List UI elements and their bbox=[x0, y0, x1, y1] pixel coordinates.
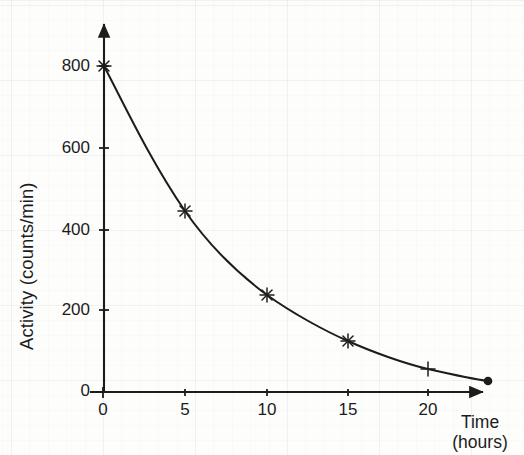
decay-chart-figure: 0 200 400 600 800 0 5 10 15 20 Activity … bbox=[0, 0, 524, 455]
y-tick-label-800: 800 bbox=[38, 56, 90, 76]
y-tick-label-200: 200 bbox=[38, 300, 90, 320]
y-tick-label-600: 600 bbox=[38, 138, 90, 158]
x-axis-title-line2: (hours) bbox=[440, 432, 520, 452]
y-axis-title: Activity (counts/min) bbox=[16, 182, 38, 350]
x-axis-title-line1: Time bbox=[440, 412, 520, 432]
data-point-0 bbox=[97, 59, 111, 73]
x-tick-label-0: 0 bbox=[98, 400, 107, 420]
x-tick-label-5: 5 bbox=[180, 400, 189, 420]
data-point-markers bbox=[97, 59, 435, 376]
x-tick-label-10: 10 bbox=[258, 400, 277, 420]
y-tick-label-400: 400 bbox=[38, 220, 90, 240]
x-tick-label-15: 15 bbox=[339, 400, 358, 420]
data-point-1 bbox=[178, 204, 192, 218]
x-axis-title: Time (hours) bbox=[440, 412, 520, 452]
data-point-3 bbox=[341, 334, 355, 348]
data-point-2 bbox=[260, 288, 274, 302]
decay-curve bbox=[104, 66, 488, 381]
curve-end-dot bbox=[484, 377, 493, 386]
x-tick-label-20: 20 bbox=[419, 400, 438, 420]
data-point-4 bbox=[421, 362, 435, 376]
y-tick-label-0: 0 bbox=[38, 381, 90, 401]
